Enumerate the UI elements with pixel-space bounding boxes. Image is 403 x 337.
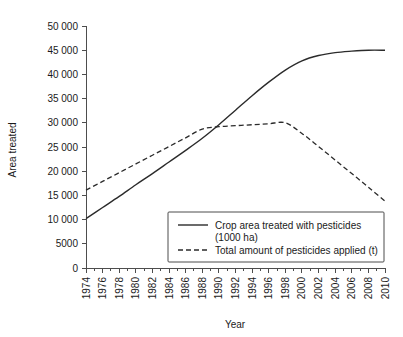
x-axis-title: Year: [225, 319, 246, 330]
x-tick-label: 1978: [114, 277, 125, 300]
x-tick-label: 2000: [296, 277, 307, 300]
y-tick-label: 25 000: [47, 142, 78, 153]
x-tick-label: 1988: [197, 277, 208, 300]
x-tick-label: 1976: [97, 277, 108, 300]
chart-container: 0500010 00015 00020 00025 00030 00035 00…: [0, 0, 403, 337]
line-chart: 0500010 00015 00020 00025 00030 00035 00…: [0, 0, 403, 337]
x-tick-label: 1990: [213, 277, 224, 300]
y-tick-label: 35 000: [47, 93, 78, 104]
x-tick-label: 1992: [230, 277, 241, 300]
x-tick-label: 2004: [330, 277, 341, 300]
x-tick-label: 1994: [247, 277, 258, 300]
x-tick-label: 1986: [180, 277, 191, 300]
x-tick-label: 2010: [380, 277, 391, 300]
y-tick-label: 0: [72, 263, 78, 274]
y-tick-label: 50 000: [47, 21, 78, 32]
legend-label-line1: Crop area treated with pesticides: [215, 220, 361, 231]
y-tick-label: 20 000: [47, 166, 78, 177]
y-tick-label: 5000: [56, 238, 79, 249]
x-tick-label: 2006: [346, 277, 357, 300]
y-tick-label: 15 000: [47, 190, 78, 201]
y-tick-label: 10 000: [47, 214, 78, 225]
y-tick-label: 45 000: [47, 45, 78, 56]
legend-label-line1: Total amount of pesticides applied (t): [215, 245, 378, 256]
x-tick-label: 1980: [130, 277, 141, 300]
x-tick-label: 2002: [313, 277, 324, 300]
x-tick-label: 1996: [263, 277, 274, 300]
chart-legend[interactable]: Crop area treated with pesticides(1000 h…: [168, 212, 384, 262]
x-tick-label: 1998: [280, 277, 291, 300]
x-tick-label: 1984: [164, 277, 175, 300]
legend-label-line2: (1000 ha): [215, 232, 258, 243]
x-tick-label: 2008: [363, 277, 374, 300]
x-tick-label: 1982: [147, 277, 158, 300]
x-tick-label: 1974: [81, 277, 92, 300]
y-axis-title: Area treated: [7, 122, 18, 177]
y-tick-label: 40 000: [47, 69, 78, 80]
y-tick-label: 30 000: [47, 117, 78, 128]
